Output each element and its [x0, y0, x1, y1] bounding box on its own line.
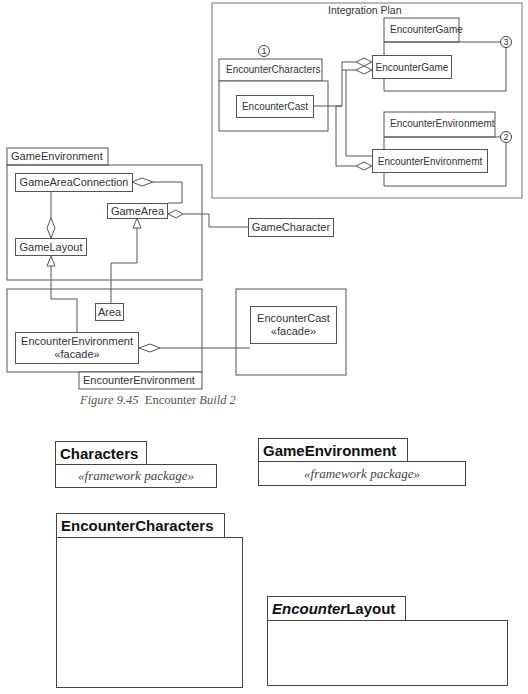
- encounter-environmemt-class: EncounterEnvironmemt: [372, 149, 488, 173]
- encounter-layout-package-tab: EncounterLayout: [267, 596, 406, 621]
- encounter-cast-stereotype: «facade»: [271, 325, 316, 338]
- game-area-connection-class: GameAreaConnection: [15, 173, 133, 192]
- caption-text: Encounter: [145, 393, 196, 407]
- step-3-badge: 3: [500, 36, 512, 48]
- characters-package-body: «framework package»: [55, 464, 217, 488]
- integration-plan-title: Integration Plan: [328, 4, 402, 16]
- characters-package-tab: Characters: [55, 441, 147, 465]
- encounter-game-class: EncounterGame: [372, 55, 452, 79]
- facade-class-name: EncounterEnvironment: [21, 335, 133, 348]
- caption-italic-text: Build 2: [199, 393, 235, 407]
- encounter-layout-italic: Encounter: [272, 600, 346, 617]
- encounter-layout-package-body: [267, 620, 508, 686]
- encounter-environment-package-tab: EncounterEnvironment: [83, 374, 195, 386]
- encounter-game-package-tab: EncounterGame: [390, 24, 463, 35]
- area-class: Area: [95, 303, 124, 321]
- encounter-cast-facade-class: EncounterCast «facade»: [250, 306, 337, 344]
- step-1-badge: 1: [258, 45, 270, 57]
- game-environment-package-tab: GameEnvironment: [11, 150, 103, 162]
- game-layout-class: GameLayout: [15, 238, 87, 256]
- encounter-layout-regular: Layout: [346, 600, 395, 617]
- encounter-characters-package-tab-large: EncounterCharacters: [56, 513, 225, 538]
- game-environment-stereotype: «framework package»: [304, 466, 420, 482]
- facade-stereotype: «facade»: [54, 348, 99, 361]
- game-environment-framework-tab: GameEnvironment: [258, 438, 408, 462]
- game-environment-framework-body: «framework package»: [258, 461, 466, 486]
- characters-stereotype: «framework package»: [78, 468, 194, 484]
- figure-caption: Figure 9.45 Encounter Build 2: [80, 393, 236, 408]
- encounter-characters-package-body: [56, 537, 243, 688]
- game-area-class: GameArea: [107, 203, 168, 219]
- encounter-environment-facade-class: EncounterEnvironment «facade»: [15, 332, 139, 364]
- game-character-class: GameCharacter: [248, 218, 334, 237]
- encounter-environmemt-package-tab: EncounterEnvironmemt: [390, 118, 495, 129]
- encounter-characters-package-tab: EncounterCharacters: [226, 64, 321, 75]
- caption-figure-number: Figure 9.45: [80, 393, 139, 407]
- encounter-cast-name: EncounterCast: [257, 312, 330, 325]
- step-2-badge: 2: [500, 131, 512, 143]
- encounter-cast-class: EncounterCast: [236, 95, 314, 118]
